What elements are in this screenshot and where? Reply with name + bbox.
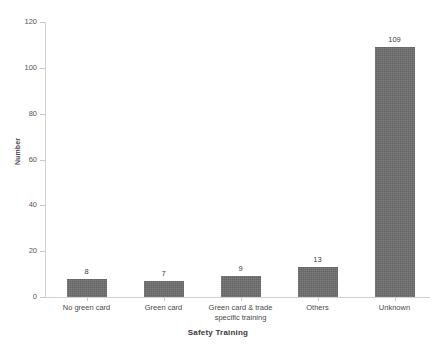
y-axis-tick: 0 (40, 297, 45, 298)
y-axis-tick: 100 (40, 68, 45, 69)
y-axis-tick-label: 100 (24, 63, 37, 72)
y-axis-tick-label: 120 (24, 17, 37, 26)
y-axis-title: Number (14, 122, 21, 182)
y-axis-tick-label: 80 (29, 109, 37, 118)
y-axis-tick: 120 (40, 22, 45, 23)
bar-chart: Number 02040608010012087913109 Safety Tr… (0, 0, 436, 351)
x-axis-title: Safety Training (0, 328, 436, 337)
x-axis-tick (395, 297, 396, 301)
y-axis-tick-label: 0 (33, 292, 37, 301)
bar-value-label: 8 (84, 267, 88, 276)
y-axis-tick: 20 (40, 251, 45, 252)
y-axis-line (45, 22, 46, 297)
bar[interactable]: 109 (375, 47, 415, 297)
bar[interactable]: 8 (67, 279, 107, 297)
y-axis-tick-label: 20 (29, 246, 37, 255)
bar[interactable]: 7 (144, 281, 184, 297)
y-axis-tick-label: 60 (29, 155, 37, 164)
x-axis-tick-label: Unknown (349, 303, 436, 313)
x-axis-tick (318, 297, 319, 301)
bar-value-label: 9 (238, 264, 242, 273)
y-axis-tick: 60 (40, 160, 45, 161)
bar[interactable]: 13 (298, 267, 338, 297)
y-axis-tick: 40 (40, 205, 45, 206)
bar-value-label: 13 (313, 255, 321, 264)
x-axis-tick (164, 297, 165, 301)
y-axis-tick: 80 (40, 114, 45, 115)
y-axis-tick-label: 40 (29, 200, 37, 209)
bar[interactable]: 9 (221, 276, 261, 297)
x-axis-line (45, 297, 430, 298)
x-axis-tick (241, 297, 242, 301)
bar-value-label: 7 (161, 269, 165, 278)
plot-area: 02040608010012087913109 (45, 22, 430, 297)
bar-value-label: 109 (388, 35, 401, 44)
x-axis-tick (87, 297, 88, 301)
